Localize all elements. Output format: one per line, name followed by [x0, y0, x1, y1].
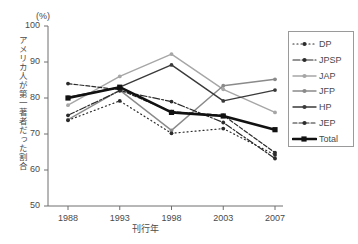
data-point-jpsp [66, 113, 70, 117]
data-point-total [117, 85, 122, 90]
legend: DPJPSPJAPJFPHPJEPTotal [288, 31, 354, 147]
series-line-dp [68, 101, 275, 155]
data-point-jep [273, 151, 277, 155]
data-point-dp [118, 99, 122, 103]
data-point-jpsp [170, 100, 174, 104]
legend-label: JAP [319, 70, 336, 82]
x-axis-tick-label: 2003 [203, 213, 243, 223]
legend-swatch-jpsp [292, 54, 317, 66]
x-axis-tick-label: 2007 [255, 213, 295, 223]
data-point-jap [273, 111, 277, 115]
y-axis-tick-label: 60 [14, 164, 40, 174]
data-point-jep [66, 82, 70, 86]
legend-swatch-dp [292, 38, 317, 50]
y-axis-tick-label: 50 [14, 200, 40, 210]
legend-label: JPSP [319, 54, 342, 66]
data-point-jap [221, 87, 225, 91]
data-point-dp [66, 118, 70, 122]
legend-item-dp[interactable]: DP [292, 36, 354, 52]
legend-swatch-total [292, 133, 317, 145]
y-axis-tick-label: 70 [14, 128, 40, 138]
legend-swatch-jap [292, 70, 317, 82]
legend-item-hp[interactable]: HP [292, 99, 354, 115]
legend-marker [302, 105, 306, 109]
y-axis-tick-label: 80 [14, 92, 40, 102]
legend-item-jap[interactable]: JAP [292, 68, 354, 84]
data-point-jpsp [273, 157, 277, 161]
legend-item-jpsp[interactable]: JPSP [292, 52, 354, 68]
legend-label: JFP [319, 85, 335, 97]
legend-label: HP [319, 101, 332, 113]
data-point-total [169, 110, 174, 115]
data-point-jap [66, 103, 70, 107]
x-axis-tick-label: 1998 [152, 213, 192, 223]
y-axis-tick-label: 90 [14, 56, 40, 66]
data-point-dp [170, 131, 174, 135]
legend-swatch-jep [292, 117, 317, 129]
legend-label: Total [319, 133, 338, 145]
data-point-hp [273, 88, 277, 92]
legend-marker [302, 89, 306, 93]
data-point-total [65, 95, 70, 100]
data-point-jpsp [221, 121, 225, 125]
data-point-jfp [273, 77, 277, 81]
legend-item-jep[interactable]: JEP [292, 115, 354, 131]
legend-label: JEP [319, 117, 336, 129]
legend-item-jfp[interactable]: JFP [292, 83, 354, 99]
data-point-hp [221, 99, 225, 103]
data-point-hp [170, 63, 174, 67]
legend-label: DP [319, 38, 332, 50]
legend-marker [302, 58, 306, 62]
legend-marker [302, 121, 306, 125]
chart-figure: (%) アメリカ人が第一著者だった割合 刊行年 DPJPSPJAPJFPHPJE… [0, 0, 358, 244]
x-axis-tick-label: 1988 [48, 213, 88, 223]
data-point-jap [118, 75, 122, 79]
data-point-dp [221, 127, 225, 131]
data-point-jfp [221, 84, 225, 88]
legend-marker [301, 136, 306, 141]
data-point-jap [170, 52, 174, 56]
legend-marker [302, 73, 306, 77]
data-point-total [221, 113, 226, 118]
series-line-jep [68, 84, 275, 153]
legend-swatch-jfp [292, 85, 317, 97]
legend-marker [302, 42, 306, 46]
x-axis-tick-label: 1993 [100, 213, 140, 223]
legend-item-total[interactable]: Total [292, 131, 354, 147]
y-axis-tick-label: 100 [14, 20, 40, 30]
data-point-total [272, 127, 277, 132]
legend-swatch-hp [292, 101, 317, 113]
